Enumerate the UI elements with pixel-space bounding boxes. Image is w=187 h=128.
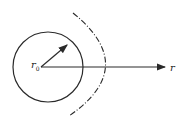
radius-arrow [41, 45, 67, 67]
r0-label: r0 [31, 59, 40, 72]
dash-dot-arc [69, 13, 106, 116]
r-axis-label: r [170, 62, 176, 73]
diagram: r0 r [0, 0, 187, 128]
